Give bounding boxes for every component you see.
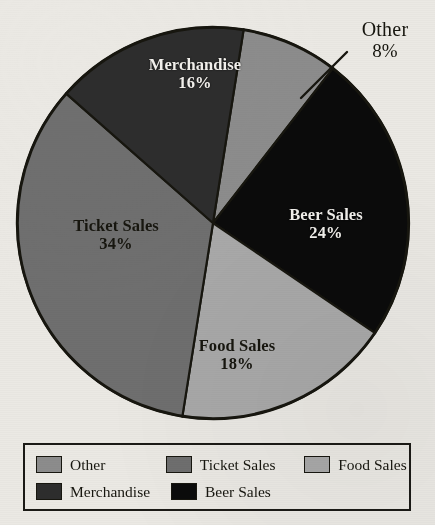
- legend-swatch-ticket-sales: [166, 456, 192, 473]
- slice-label-beer-sales: Beer Sales 24%: [252, 206, 400, 243]
- pie-chart: Merchandise 16% Ticket Sales 34% Beer Sa…: [0, 0, 435, 436]
- slice-label-other-name: Other: [337, 18, 433, 41]
- slice-label-food-sales-name: Food Sales: [163, 337, 311, 355]
- legend-row: MerchandiseBeer Sales: [36, 478, 409, 505]
- legend: OtherTicket SalesFood SalesMerchandiseBe…: [23, 443, 411, 511]
- slice-label-merchandise-name: Merchandise: [110, 56, 280, 74]
- slice-label-food-sales-value: 18%: [163, 355, 311, 373]
- legend-swatch-merchandise: [36, 483, 62, 500]
- slice-label-beer-sales-name: Beer Sales: [252, 206, 400, 224]
- legend-item-other[interactable]: Other: [36, 451, 166, 478]
- legend-label-beer-sales: Beer Sales: [205, 483, 271, 501]
- slice-label-beer-sales-value: 24%: [252, 224, 400, 242]
- legend-swatch-food-sales: [304, 456, 330, 473]
- slice-label-other: Other 8%: [337, 18, 433, 62]
- slice-label-merchandise-value: 16%: [110, 74, 280, 92]
- legend-label-ticket-sales: Ticket Sales: [200, 456, 276, 474]
- legend-label-food-sales: Food Sales: [338, 456, 406, 474]
- legend-item-merchandise[interactable]: Merchandise: [36, 478, 171, 505]
- slice-label-food-sales: Food Sales 18%: [163, 337, 311, 374]
- legend-swatch-beer-sales: [171, 483, 197, 500]
- legend-row: OtherTicket SalesFood Sales: [36, 451, 409, 478]
- slice-label-merchandise: Merchandise 16%: [110, 56, 280, 93]
- slice-label-ticket-sales-name: Ticket Sales: [34, 217, 198, 235]
- legend-item-beer-sales[interactable]: Beer Sales: [171, 478, 315, 505]
- legend-swatch-other: [36, 456, 62, 473]
- legend-label-merchandise: Merchandise: [70, 483, 150, 501]
- legend-item-food-sales[interactable]: Food Sales: [304, 451, 409, 478]
- slice-label-ticket-sales-value: 34%: [34, 235, 198, 253]
- legend-label-other: Other: [70, 456, 105, 474]
- slice-label-other-value: 8%: [337, 40, 433, 62]
- legend-rows: OtherTicket SalesFood SalesMerchandiseBe…: [25, 445, 409, 509]
- legend-item-ticket-sales[interactable]: Ticket Sales: [166, 451, 304, 478]
- slice-label-ticket-sales: Ticket Sales 34%: [34, 217, 198, 254]
